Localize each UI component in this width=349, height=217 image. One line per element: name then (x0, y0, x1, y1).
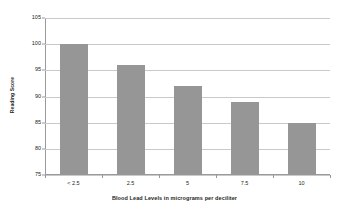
x-tick-labels: < 2.52.557.510 (45, 181, 330, 187)
y-tick-label: 95 (35, 68, 41, 74)
bar-slot (273, 18, 330, 175)
x-tick-marks (45, 175, 330, 179)
y-tick-label: 90 (35, 94, 41, 100)
x-tick-mark (216, 175, 217, 178)
x-axis-title: Blood Lead Levels in micrograms per deci… (0, 195, 349, 201)
bar-slot (216, 18, 273, 175)
x-tick-label: 10 (273, 181, 330, 187)
x-tick-mark (273, 175, 274, 178)
x-tick-mark (330, 175, 331, 178)
x-tick-mark (45, 175, 46, 178)
x-tick-label: 7.5 (216, 181, 273, 187)
bar (231, 102, 259, 175)
y-tick-label: 105 (32, 15, 41, 21)
x-tick-label: 2.5 (102, 181, 159, 187)
bar-chart: Reading Score 1051009590858075 < 2.52.55… (0, 0, 349, 217)
y-tick-label: 100 (32, 41, 41, 47)
y-axis-title: Reading Score (9, 60, 15, 130)
bar (117, 65, 145, 175)
plot-area: 1051009590858075 (45, 18, 330, 175)
bar-slot (45, 18, 102, 175)
x-tick-label: < 2.5 (45, 181, 102, 187)
bar (288, 123, 316, 175)
y-tick-label: 85 (35, 120, 41, 126)
y-tick-label: 75 (35, 172, 41, 178)
x-tick-mark (159, 175, 160, 178)
bar (174, 86, 202, 175)
bar-slot (159, 18, 216, 175)
x-tick-label: 5 (159, 181, 216, 187)
x-tick-mark (102, 175, 103, 178)
bar (60, 44, 88, 175)
y-tick-label: 80 (35, 146, 41, 152)
bar-series (45, 18, 330, 175)
bar-slot (102, 18, 159, 175)
